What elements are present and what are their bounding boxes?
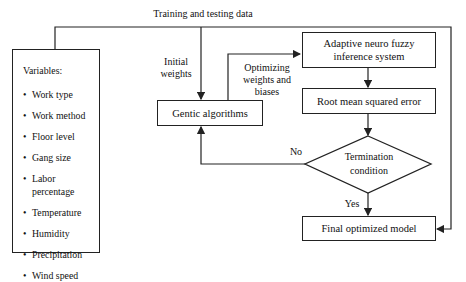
bullet-icon: • xyxy=(23,130,26,143)
rmse-box: Root mean squared error xyxy=(302,88,436,114)
variable-item: •Work method xyxy=(23,109,99,122)
variable-item: •Gang size xyxy=(23,151,99,164)
variable-item: •Work type xyxy=(23,88,99,101)
variable-item: •Laborpercentage xyxy=(23,172,99,198)
edge-label-yes: Yes xyxy=(340,198,364,210)
optimizing-line1: Optimizing xyxy=(232,62,302,74)
genetic-algorithms-box: Gentic algorithms xyxy=(157,100,263,126)
edge-label-training-data: Training and testing data xyxy=(128,8,278,20)
variable-item: •Precipitation xyxy=(23,248,99,261)
edge-label-optimizing: Optimizing weights and biases xyxy=(232,62,302,98)
variable-item: •Humidity xyxy=(23,227,99,240)
variable-item: •Temperature xyxy=(23,206,99,219)
genetic-algorithms-label: Gentic algorithms xyxy=(172,107,248,120)
anfis-line1: Adaptive neuro fuzzy xyxy=(324,37,415,50)
termination-line2: condition xyxy=(322,164,416,178)
bullet-icon: • xyxy=(23,248,26,261)
initial-weights-line2: weights xyxy=(154,68,198,80)
final-model-label: Final optimized model xyxy=(321,222,416,235)
anfis-line2: inference system xyxy=(324,50,415,63)
bullet-icon: • xyxy=(23,151,26,164)
variables-list: •Work type •Work method •Floor level •Ga… xyxy=(23,88,99,282)
variable-item: •Wind speed xyxy=(23,269,99,282)
edge-label-initial-weights: Initial weights xyxy=(154,56,198,80)
bullet-icon: • xyxy=(23,172,26,185)
bullet-icon: • xyxy=(23,206,26,219)
bullet-icon: • xyxy=(23,269,26,282)
bullet-icon: • xyxy=(23,88,26,101)
variable-item: •Floor level xyxy=(23,130,99,143)
anfis-box: Adaptive neuro fuzzy inference system xyxy=(302,32,436,68)
variables-box: Variables: •Work type •Work method •Floo… xyxy=(12,49,100,253)
final-model-box: Final optimized model xyxy=(302,216,436,241)
optimizing-line2: weights and biases xyxy=(232,74,302,98)
termination-label: Termination condition xyxy=(322,150,416,178)
bullet-icon: • xyxy=(23,227,26,240)
bullet-icon: • xyxy=(23,109,26,122)
termination-line1: Termination xyxy=(322,150,416,164)
initial-weights-line1: Initial xyxy=(154,56,198,68)
edge-label-no: No xyxy=(286,146,306,158)
variables-title: Variables: xyxy=(23,64,99,77)
rmse-label: Root mean squared error xyxy=(317,95,421,108)
